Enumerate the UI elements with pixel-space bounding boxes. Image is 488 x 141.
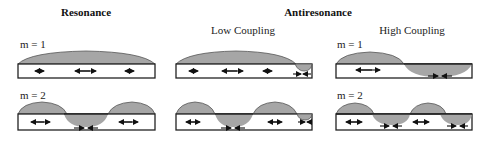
mode-lobe-left [336, 52, 404, 64]
mode-lobe-3 [410, 103, 446, 114]
mode-lobe-left [176, 102, 215, 114]
mode-lobe-right [108, 102, 155, 114]
mode-lobe [18, 51, 155, 64]
resonance-m1-panel [18, 51, 155, 78]
mode-lobe-right [253, 102, 297, 114]
mode-label-m2-resonance: m = 2 [20, 89, 46, 101]
low-coupling-m1-panel [176, 51, 312, 78]
mode-label-m1-high: m = 1 [337, 38, 363, 50]
mode-lobe-1 [336, 103, 374, 114]
mode-lobe-left [18, 102, 67, 114]
high-coupling-m2-panel [336, 103, 472, 130]
mode-lobe [176, 51, 296, 64]
high-coupling-m1-panel [336, 52, 472, 78]
resonance-m2-panel [18, 102, 155, 130]
antiresonance-header: Antiresonance [284, 6, 352, 18]
high-coupling-header: High Coupling [379, 24, 445, 36]
low-coupling-header: Low Coupling [211, 24, 275, 36]
resonance-header: Resonance [61, 6, 111, 18]
mode-shape-diagram: Resonance Antiresonance Low Coupling Hig… [0, 0, 488, 141]
mode-label-m1-resonance: m = 1 [20, 38, 46, 50]
low-coupling-m2-panel [176, 102, 312, 130]
mode-label-m2-high: m = 2 [337, 89, 363, 101]
